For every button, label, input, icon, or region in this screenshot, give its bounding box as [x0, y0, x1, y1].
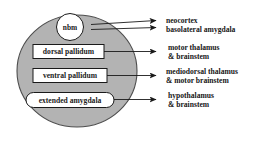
node-dorsal-pallidum[interactable]: dorsal pallidum — [33, 45, 104, 59]
target-label-motor-thalamus-line2: & brainstem — [168, 52, 210, 61]
node-extended-amygdala[interactable]: extended amygdala — [26, 93, 114, 108]
node-nbm[interactable]: nbm — [57, 14, 84, 41]
ventral-pallidum-label: ventral pallidum — [43, 71, 98, 80]
extended-amygdala-label: extended amygdala — [39, 96, 102, 105]
target-label-mediodorsal-thalamus-line1: mediodorsal thalamus — [166, 67, 238, 76]
target-label-mediodorsal-thalamus-line2: & motor brainstem — [166, 76, 229, 85]
basal-forebrain-diagram: nbm dorsal pallidum ventral pallidum ext… — [0, 0, 254, 143]
target-label-hypothalamus-line1: hypothalamus — [168, 91, 214, 100]
target-label-hypothalamus-line2: & brainstem — [168, 100, 210, 109]
node-ventral-pallidum[interactable]: ventral pallidum — [33, 69, 107, 83]
target-label-basolateral-amygdala: basolateral amygdala — [166, 25, 236, 34]
dorsal-pallidum-label: dorsal pallidum — [43, 47, 95, 56]
target-label-neocortex: neocortex — [166, 16, 198, 25]
diagram-canvas: nbm dorsal pallidum ventral pallidum ext… — [0, 0, 254, 143]
target-label-motor-thalamus-line1: motor thalamus — [168, 43, 220, 52]
nbm-label: nbm — [63, 23, 78, 32]
